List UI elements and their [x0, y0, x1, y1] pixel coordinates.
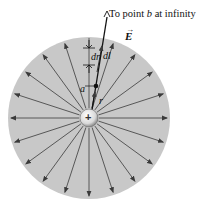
- point-a: [94, 84, 99, 89]
- field-label: →E: [125, 31, 132, 42]
- charge-sign: +: [85, 112, 91, 123]
- field-svg: [0, 0, 211, 209]
- electric-field-diagram: To point b at infinity →E a r dr dl +: [0, 0, 211, 209]
- dr-label: dr: [91, 52, 100, 62]
- point-a-label: a: [80, 84, 85, 94]
- title-label: To point b at infinity: [109, 9, 196, 20]
- radius-label: r: [99, 96, 103, 106]
- dl-label: dl: [103, 51, 111, 61]
